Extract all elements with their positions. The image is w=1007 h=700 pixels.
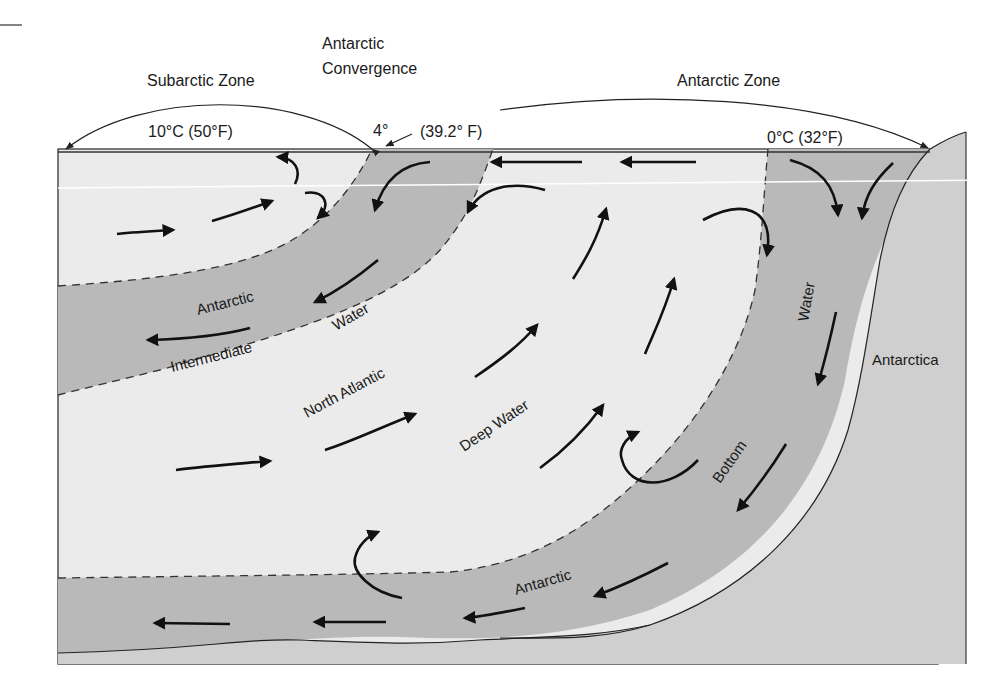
label-antarctica: Antarctica xyxy=(872,351,939,368)
label-temp-convergence-f: (39.2° F) xyxy=(420,123,482,140)
label-antarctic-zone: Antarctic Zone xyxy=(677,72,780,89)
convergence-pointer xyxy=(386,134,412,146)
label-subarctic-zone: Subarctic Zone xyxy=(147,72,255,89)
label-antarctic-convergence-1: Antarctic xyxy=(322,35,384,52)
label-antarctic-convergence-2: Convergence xyxy=(322,60,417,77)
antarctic-zone-bracket xyxy=(500,99,928,148)
ocean-circulation-diagram: Subarctic Zone Antarctic Convergence Ant… xyxy=(0,0,1007,700)
label-temp-antarctic: 0°C (32°F) xyxy=(767,129,843,146)
label-temp-subarctic: 10°C (50°F) xyxy=(148,123,233,140)
arrow-aabw-left-3 xyxy=(155,623,230,624)
label-temp-convergence: 4° xyxy=(373,122,388,139)
